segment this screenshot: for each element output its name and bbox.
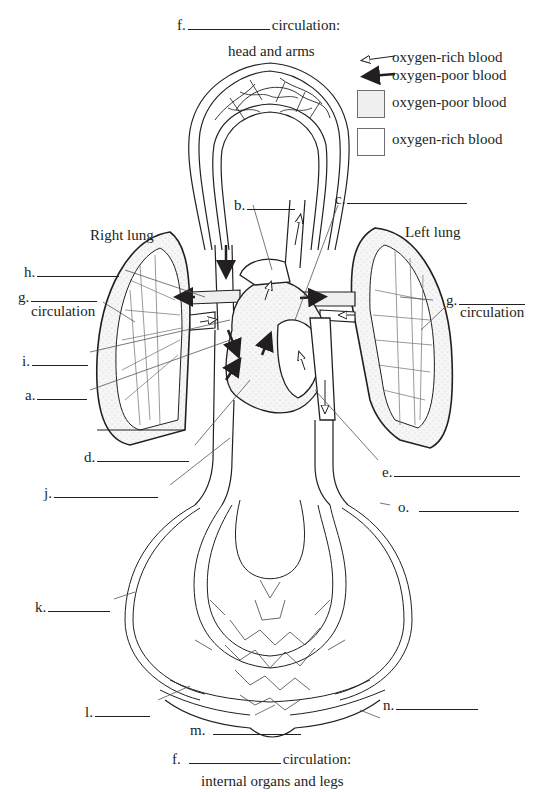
label-m: m.: [190, 723, 303, 738]
label-m-blank[interactable]: [213, 734, 301, 735]
legend-label-oxygen-rich-arrow: oxygen-rich blood: [392, 50, 502, 65]
label-n: n.: [383, 698, 480, 713]
top-caption-subtitle: head and arms: [228, 44, 315, 59]
legend-label-oxygen-poor-arrow: oxygen-poor blood: [392, 68, 507, 83]
heart: [226, 259, 335, 420]
bottom-caption-suffix: circulation:: [283, 751, 351, 767]
label-c-blank[interactable]: [347, 203, 467, 204]
label-g-left-letter: g.: [18, 289, 29, 305]
legend-label-oxygen-rich-box: oxygen-rich blood: [392, 132, 502, 147]
label-i-blank[interactable]: [32, 365, 88, 366]
label-g-right-suffix: circulation: [460, 305, 524, 320]
label-a-letter: a.: [25, 387, 35, 403]
left-lung-label: Left lung: [405, 225, 460, 240]
hollow-arrow-left-icon: [365, 56, 395, 60]
label-k: k.: [35, 600, 112, 615]
label-a-blank[interactable]: [37, 399, 87, 400]
label-b: b.: [234, 198, 297, 213]
label-e: e.: [382, 465, 522, 480]
label-o-blank[interactable]: [419, 511, 519, 512]
label-d-letter: d.: [84, 449, 95, 465]
label-l-blank[interactable]: [95, 716, 150, 717]
internal-organs-capillaries: [125, 500, 412, 737]
head-arms-capillaries: [189, 63, 349, 250]
label-c-letter: c.: [335, 191, 345, 207]
right-lung-label: Right lung: [90, 228, 154, 243]
label-o-letter: o.: [398, 499, 409, 515]
label-o: o.: [398, 500, 521, 515]
label-h-blank[interactable]: [37, 276, 119, 277]
bottom-caption-blank[interactable]: [189, 763, 281, 764]
top-caption-suffix: circulation:: [272, 17, 340, 33]
legend-arrows: [365, 56, 395, 76]
label-j-letter: j.: [44, 485, 52, 501]
label-n-blank[interactable]: [396, 709, 478, 710]
white-box: [357, 128, 385, 156]
stippled-gray-box: [357, 90, 385, 118]
legend-label-oxygen-poor-box: oxygen-poor blood: [392, 95, 507, 110]
top-caption: f.circulation:: [177, 18, 340, 33]
label-h: h.: [24, 265, 121, 280]
label-g-left-suffix: circulation: [31, 304, 95, 319]
label-d-blank[interactable]: [97, 461, 189, 462]
label-b-letter: b.: [234, 197, 245, 213]
bottom-caption-letter: f.: [172, 751, 181, 767]
top-caption-blank[interactable]: [188, 29, 270, 30]
right-lung: [97, 232, 190, 445]
label-k-blank[interactable]: [48, 611, 110, 612]
label-d: d.: [84, 450, 191, 465]
label-i-letter: i.: [22, 353, 30, 369]
label-e-letter: e.: [382, 464, 392, 480]
bottom-caption: f.circulation:: [172, 752, 351, 767]
label-k-letter: k.: [35, 599, 46, 615]
label-g-left-blank[interactable]: [31, 301, 97, 302]
top-caption-letter: f.: [177, 17, 186, 33]
label-n-letter: n.: [383, 697, 394, 713]
label-m-letter: m.: [190, 722, 205, 738]
label-j-blank[interactable]: [54, 497, 158, 498]
label-h-letter: h.: [24, 264, 35, 280]
label-e-blank[interactable]: [394, 476, 520, 477]
label-a: a.: [25, 388, 89, 403]
left-lung: [351, 228, 452, 448]
label-j: j.: [44, 486, 160, 501]
label-b-blank[interactable]: [247, 209, 295, 210]
label-c: c.: [335, 192, 469, 207]
bottom-caption-subtitle: internal organs and legs: [201, 774, 344, 789]
label-g-right-letter: g.: [446, 292, 457, 308]
label-l: l.: [85, 705, 152, 720]
label-i: i.: [22, 354, 90, 369]
label-l-letter: l.: [85, 704, 93, 720]
